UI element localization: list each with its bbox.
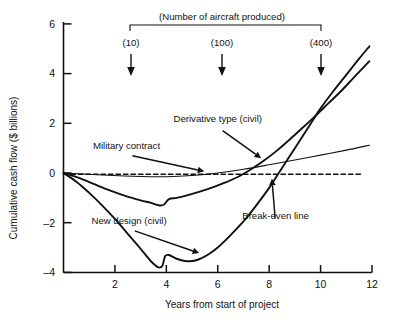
- annotation-label: Derivative type (civil): [174, 113, 263, 124]
- x-tick-label: 12: [366, 278, 378, 290]
- annotation-arrow: [135, 231, 199, 254]
- x-tick-label: 8: [266, 278, 272, 290]
- x-tick-label: 10: [315, 278, 327, 290]
- production-arrow-10: [127, 54, 135, 76]
- y-tick-label: 2: [49, 117, 55, 129]
- cash-flow-chart: (Number of aircraft produced) (10) (100)…: [0, 0, 412, 327]
- y-axis-ticks: [64, 24, 72, 273]
- annotation-arrow: [223, 131, 261, 159]
- production-arrow-100: [218, 54, 226, 76]
- series-layer: [64, 46, 370, 267]
- x-axis-ticks: [115, 265, 372, 273]
- x-axis-title: Years from start of project: [165, 299, 279, 310]
- series-line-new-design-civil: [64, 46, 370, 267]
- x-tick-label: 4: [163, 278, 169, 290]
- production-bracket: [130, 25, 321, 31]
- header-note-label: (Number of aircraft produced): [159, 11, 285, 22]
- annotation-layer: Derivative type (civil)Military contract…: [91, 113, 308, 254]
- y-tick-label: –4: [43, 266, 55, 278]
- x-tick-label: 6: [215, 278, 221, 290]
- annotation-arrow: [132, 156, 204, 174]
- x-axis-tick-labels: 24681012: [112, 278, 378, 290]
- series-line-derivative-type-civil: [64, 61, 370, 205]
- annotation-label: Military contract: [93, 140, 161, 151]
- y-tick-label: 0: [49, 167, 55, 179]
- y-tick-label: 4: [49, 67, 55, 79]
- y-tick-label: –2: [43, 217, 55, 229]
- production-marker-label-400: (400): [310, 37, 332, 48]
- production-header-group: (Number of aircraft produced) (10) (100)…: [122, 11, 332, 76]
- annotation-label: New design (civil): [91, 215, 166, 226]
- x-tick-label: 2: [112, 278, 118, 290]
- chart-svg: (Number of aircraft produced) (10) (100)…: [0, 0, 412, 327]
- production-marker-label-10: (10): [122, 37, 139, 48]
- y-axis-title: Cumulative cash flow ($ billions): [8, 97, 19, 240]
- production-marker-label-100: (100): [211, 37, 233, 48]
- y-tick-label: 6: [49, 18, 55, 30]
- production-arrow-400: [317, 54, 325, 76]
- y-axis-tick-labels: –4–20246: [43, 18, 55, 279]
